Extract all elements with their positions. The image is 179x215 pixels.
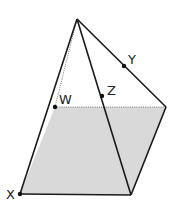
edge-x-front-right xyxy=(20,194,131,195)
point-y xyxy=(122,64,126,68)
label-w: W xyxy=(59,92,72,107)
pyramid-diagram: W Z Y X xyxy=(0,0,179,215)
label-x: X xyxy=(6,187,15,202)
pyramid-base xyxy=(20,107,166,195)
label-z: Z xyxy=(107,83,116,98)
point-x xyxy=(18,192,22,196)
point-z xyxy=(100,94,104,98)
label-y: Y xyxy=(127,52,136,67)
point-w xyxy=(53,105,57,109)
